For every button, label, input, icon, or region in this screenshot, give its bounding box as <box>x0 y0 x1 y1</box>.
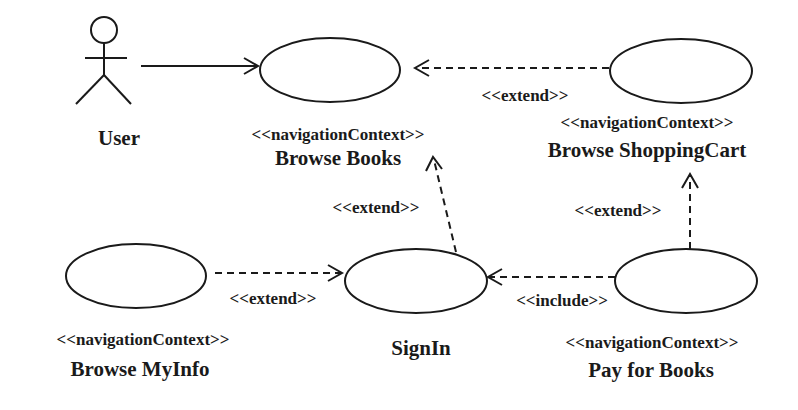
extend-label-signin: <<extend>> <box>333 198 420 217</box>
actor-head <box>91 17 117 43</box>
use-case-browse-myinfo[interactable] <box>66 244 206 308</box>
association-user-browse-books <box>141 58 258 74</box>
use-case-browse-books[interactable] <box>260 38 400 102</box>
extend-signin-browse-books <box>426 157 456 252</box>
extend-label-myinfo: <<extend>> <box>230 289 317 308</box>
include-label: <<include>> <box>516 291 608 310</box>
actor-label: User <box>98 126 140 150</box>
browse-books-stereotype: <<navigationContext>> <box>252 125 425 144</box>
pay-for-books-name: Pay for Books <box>588 358 714 382</box>
actor-left-leg <box>76 75 104 104</box>
extend-label-shoppingcart: <<extend>> <box>482 86 569 105</box>
pay-for-books-stereotype: <<navigationContext>> <box>566 333 739 352</box>
use-case-pay-for-books[interactable] <box>615 249 757 313</box>
use-case-signin[interactable] <box>345 249 487 313</box>
extend-payforbooks-shoppingcart <box>682 174 698 249</box>
browse-myinfo-stereotype: <<navigationContext>> <box>57 330 230 349</box>
include-payforbooks-signin <box>488 269 615 285</box>
browse-shopping-cart-name: Browse ShoppingCart <box>548 138 747 162</box>
browse-shopping-cart-stereotype: <<navigationContext>> <box>561 113 734 132</box>
browse-books-name: Browse Books <box>275 146 401 170</box>
use-case-diagram: User <<navigationContext>> Browse Books … <box>0 0 798 410</box>
actor-user[interactable] <box>76 17 131 104</box>
signin-name: SignIn <box>391 336 451 360</box>
extend-myinfo-signin <box>215 265 342 281</box>
extend-shoppingcart-browse-books <box>415 60 609 76</box>
use-case-browse-shopping-cart[interactable] <box>610 39 752 103</box>
extend-label-payforbooks: <<extend>> <box>575 201 662 220</box>
browse-myinfo-name: Browse MyInfo <box>70 357 209 381</box>
actor-right-leg <box>104 75 131 104</box>
